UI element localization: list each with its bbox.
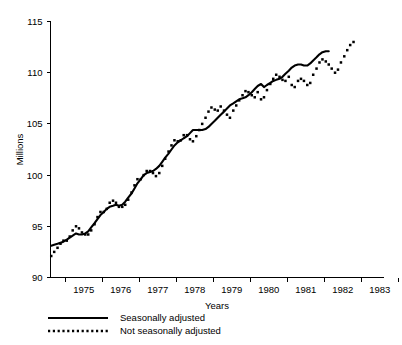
data-point-dotted xyxy=(195,135,198,138)
data-point-dotted xyxy=(346,49,349,52)
y-tick-label: 100 xyxy=(27,170,43,181)
data-point-dotted xyxy=(201,123,204,126)
data-point-dotted xyxy=(170,144,173,147)
data-point-dotted xyxy=(56,247,59,250)
y-axis-ticks: 9095100105110115 xyxy=(27,16,51,283)
x-tick-label: 1979 xyxy=(221,284,242,295)
data-point-dotted xyxy=(300,78,303,81)
data-point-dotted xyxy=(325,60,328,63)
data-point-dotted xyxy=(112,199,115,202)
y-tick-label: 105 xyxy=(27,118,43,129)
data-point-dotted xyxy=(207,110,210,113)
x-tick-label: 1982 xyxy=(332,284,353,295)
data-point-dotted xyxy=(136,178,139,181)
data-point-dotted xyxy=(256,91,259,94)
x-axis-ticks: 197519761977197819791980198119821983 xyxy=(65,278,398,295)
data-point-dotted xyxy=(219,105,222,108)
legend-label-not-seasonally-adjusted: Not seasonally adjusted xyxy=(120,325,221,336)
data-point-dotted xyxy=(182,134,185,137)
data-point-dotted xyxy=(241,94,244,97)
x-tick-label: 1983 xyxy=(369,284,390,295)
data-point-dotted xyxy=(260,98,263,101)
x-tick-label: 1975 xyxy=(73,284,94,295)
data-point-dotted xyxy=(263,96,266,99)
y-axis-label-text: Millions xyxy=(14,133,25,165)
data-point-dotted xyxy=(293,86,296,89)
data-line-solid xyxy=(51,51,329,246)
data-point-dotted xyxy=(343,55,346,58)
y-tick-label: 95 xyxy=(32,221,43,232)
data-point-dotted xyxy=(266,89,269,92)
y-tick-label: 90 xyxy=(32,272,43,283)
legend-label-seasonally-adjusted: Seasonally adjusted xyxy=(120,312,205,323)
data-point-dotted xyxy=(108,202,111,205)
data-point-dotted xyxy=(232,109,235,112)
data-point-dotted xyxy=(340,61,343,64)
data-point-dotted xyxy=(327,63,330,65)
data-point-dotted xyxy=(226,113,229,116)
data-point-dotted xyxy=(75,225,78,228)
data-point-dotted xyxy=(275,74,278,77)
data-point-dotted xyxy=(192,140,195,143)
data-point-dotted xyxy=(216,109,219,112)
series-not-seasonally-adjusted xyxy=(50,41,355,258)
data-point-dotted xyxy=(115,202,118,205)
data-point-dotted xyxy=(158,172,161,175)
data-point-dotted xyxy=(321,58,324,61)
data-point-dotted xyxy=(315,67,318,70)
data-point-dotted xyxy=(309,82,312,85)
data-point-dotted xyxy=(244,90,247,93)
data-point-dotted xyxy=(281,79,284,82)
series-seasonally-adjusted xyxy=(51,51,329,246)
x-axis-label-text: Years xyxy=(205,300,229,311)
data-point-dotted xyxy=(312,74,315,77)
data-point-dotted xyxy=(214,108,217,111)
data-point-dotted xyxy=(229,117,232,120)
data-point-dotted xyxy=(204,117,207,120)
y-axis-title: Millions xyxy=(14,133,25,165)
data-point-dotted xyxy=(303,80,306,83)
data-point-dotted xyxy=(155,175,158,178)
data-point-dotted xyxy=(290,84,293,87)
data-point-dotted xyxy=(352,41,355,44)
y-tick-label: 115 xyxy=(27,16,42,27)
x-tick-label: 1981 xyxy=(295,284,316,295)
data-point-dotted xyxy=(318,61,321,64)
x-axis-title: Years xyxy=(205,300,229,311)
data-point-dotted xyxy=(53,251,56,254)
data-point-dotted xyxy=(284,80,287,83)
data-point-dotted xyxy=(235,104,238,107)
chart-legend: Seasonally adjustedNot seasonally adjust… xyxy=(48,312,221,336)
chart-figure: 9095100105110115 19751976197719781979198… xyxy=(0,0,402,345)
x-tick-label: 1980 xyxy=(258,284,279,295)
data-point-dotted xyxy=(337,68,340,71)
data-point-dotted xyxy=(330,67,333,70)
data-point-dotted xyxy=(297,80,300,83)
data-point-dotted xyxy=(161,165,164,168)
axis-spine xyxy=(51,22,384,278)
data-point-dotted xyxy=(173,139,176,142)
chart-axes xyxy=(51,22,384,278)
y-tick-label: 110 xyxy=(27,67,42,78)
data-point-dotted xyxy=(78,227,81,230)
data-point-dotted xyxy=(288,76,291,79)
data-point-dotted xyxy=(87,233,90,236)
line-chart: 9095100105110115 19751976197719781979198… xyxy=(0,0,402,345)
data-point-dotted xyxy=(349,44,352,47)
data-point-dotted xyxy=(50,255,53,258)
x-tick-label: 1976 xyxy=(110,284,131,295)
data-point-dotted xyxy=(189,138,192,141)
data-point-dotted xyxy=(71,229,74,232)
x-tick-label: 1978 xyxy=(184,284,205,295)
data-point-dotted xyxy=(334,71,337,74)
data-point-dotted xyxy=(306,84,309,87)
data-point-dotted xyxy=(253,96,256,99)
x-tick-label: 1977 xyxy=(147,284,168,295)
data-point-dotted xyxy=(210,106,213,109)
